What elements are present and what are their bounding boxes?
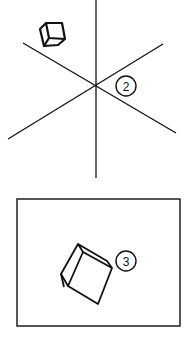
small-cube-icon: [40, 23, 65, 46]
callout-label-3-text: 3: [123, 255, 130, 269]
tilted-cube-icon: [61, 244, 112, 304]
callout-label-2-text: 2: [123, 80, 130, 94]
diagonal-axis-b: [8, 44, 163, 139]
figure-canvas: 2 3: [0, 0, 189, 347]
callout-label-3: 3: [116, 251, 136, 271]
bottom-frame: [17, 199, 180, 326]
callout-label-2: 2: [116, 76, 136, 96]
diagonal-axis-a: [23, 43, 176, 133]
axes-group: [8, 0, 176, 178]
